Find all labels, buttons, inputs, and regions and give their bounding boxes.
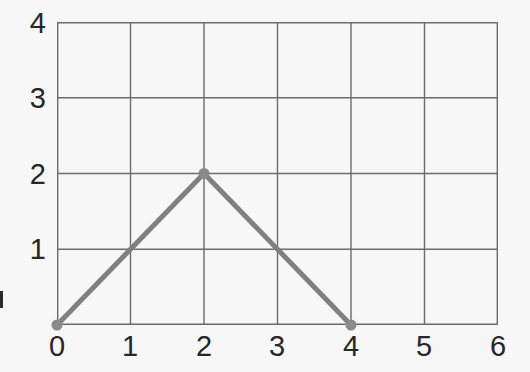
y-tick-label-4: 4 (30, 9, 46, 38)
x-tick-label-4: 4 (343, 332, 359, 361)
x-tick-label-3: 3 (269, 332, 285, 361)
plot-area (57, 22, 498, 325)
clipped-axis-label-sliver (0, 291, 3, 308)
data-series-triangle (57, 22, 498, 325)
y-tick-label-2: 2 (30, 160, 46, 189)
x-tick-label-2: 2 (196, 332, 212, 361)
data-point-marker (52, 320, 63, 331)
data-line (57, 174, 351, 326)
x-tick-label-0: 0 (49, 332, 65, 361)
data-point-marker (346, 320, 357, 331)
x-tick-label-1: 1 (122, 332, 138, 361)
chart-figure: 0 1 2 3 4 5 6 4 3 2 1 (0, 0, 530, 372)
y-tick-label-1: 1 (30, 235, 46, 264)
y-tick-label-3: 3 (30, 84, 46, 113)
x-tick-label-6: 6 (490, 332, 506, 361)
data-point-marker (199, 168, 210, 179)
x-tick-label-5: 5 (416, 332, 432, 361)
